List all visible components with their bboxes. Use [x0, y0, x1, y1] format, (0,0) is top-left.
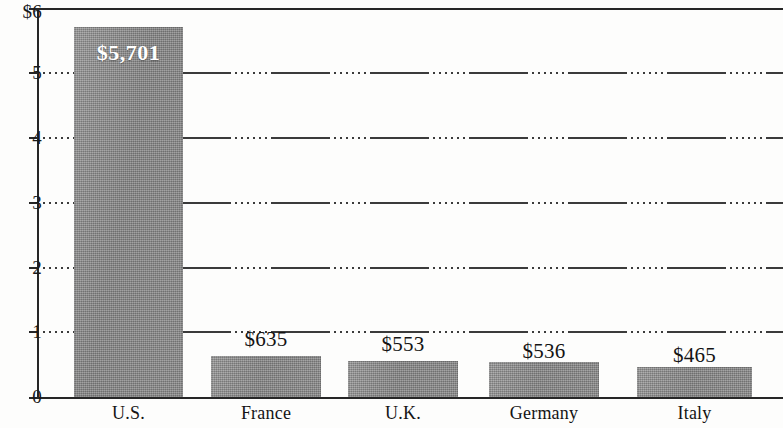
bar-chart: $6 5 4 3 2 1 0 $5,701 $635 $553 $536 $46…: [0, 0, 783, 428]
bar-uk[interactable]: [348, 361, 458, 397]
bar-value-us: $5,701: [74, 40, 183, 66]
bar-value-uk: $553: [348, 334, 458, 355]
x-axis-label-germany: Germany: [489, 404, 599, 422]
bar-us[interactable]: $5,701: [74, 27, 183, 397]
bar-germany[interactable]: [489, 362, 599, 397]
bar-value-italy: $465: [637, 345, 752, 366]
bar-value-germany: $536: [489, 341, 599, 362]
bar-value-france: $635: [211, 329, 321, 350]
bar-italy[interactable]: [637, 367, 752, 397]
x-axis-label-us: U.S.: [74, 404, 183, 422]
x-axis-label-italy: Italy: [637, 404, 752, 422]
x-axis-label-france: France: [211, 404, 321, 422]
bar-france[interactable]: [211, 356, 321, 397]
x-axis-label-uk: U.K.: [348, 404, 458, 422]
